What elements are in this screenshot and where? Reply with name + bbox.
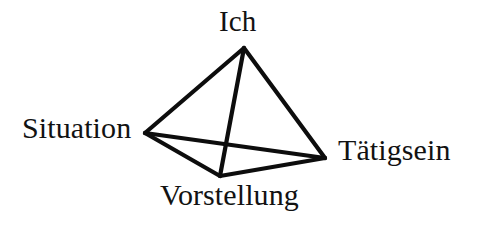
vertex-label-vorstellung: Vorstellung (160, 180, 299, 210)
diagram-canvas: Ich Situation Tätigsein Vorstellung (0, 0, 481, 230)
edge-vorstellung-taetigsein (220, 158, 325, 176)
vertex-label-ich: Ich (219, 7, 256, 36)
tetrahedron-edges (145, 48, 325, 176)
vertex-label-taetigsein: Tätigsein (338, 135, 451, 165)
vertex-label-situation: Situation (22, 113, 131, 143)
edge-ich-taetigsein (244, 48, 325, 158)
edge-situation-taetigsein (145, 133, 325, 158)
